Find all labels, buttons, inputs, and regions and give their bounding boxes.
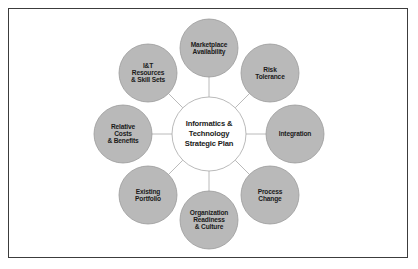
- node-circle-integration[interactable]: [266, 105, 324, 163]
- node-circle-marketplace-availability[interactable]: [180, 19, 238, 77]
- spoke-existing-portfolio: [169, 160, 183, 174]
- spoke-it-resources-skill-sets: [169, 94, 183, 108]
- hub-circle-hub[interactable]: [172, 97, 246, 171]
- spoke-process-change: [235, 160, 249, 174]
- node-circle-process-change[interactable]: [241, 166, 299, 224]
- spoke-risk-tolerance: [235, 94, 249, 108]
- node-circle-existing-portfolio[interactable]: [119, 166, 177, 224]
- node-circle-it-resources-skill-sets[interactable]: [119, 44, 177, 102]
- node-circle-organization-readiness-culture[interactable]: [180, 191, 238, 249]
- hub-and-spoke-diagram: [0, 0, 418, 269]
- node-circle-relative-costs-benefits[interactable]: [94, 105, 152, 163]
- hub-circle: [172, 97, 246, 171]
- diagram-canvas: Marketplace AvailabilityRisk ToleranceIn…: [0, 0, 418, 269]
- node-circle-risk-tolerance[interactable]: [241, 44, 299, 102]
